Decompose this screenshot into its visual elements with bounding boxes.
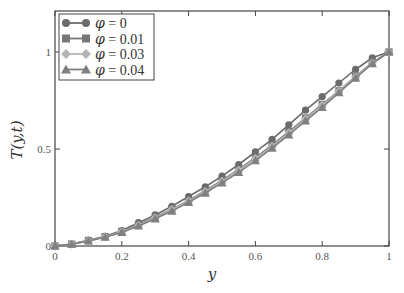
marker-circle (319, 93, 326, 100)
legend-label: φ = 0 (95, 15, 127, 31)
x-tick-label: 0.6 (249, 250, 263, 262)
x-tick-label: 0.4 (182, 250, 196, 262)
x-tick-label: 0.2 (115, 250, 129, 262)
line-chart: 00.20.40.60.8100.51 y T(y,t) φ = 0φ = 0.… (0, 0, 404, 293)
y-tick-label: 0.5 (37, 143, 51, 155)
legend-label: φ = 0.01 (95, 31, 144, 47)
x-axis-label: y (207, 265, 217, 283)
y-axis-label: T(y,t) (8, 120, 26, 159)
legend-label: φ = 0.04 (95, 62, 144, 78)
x-tick-label: 0.8 (315, 250, 329, 262)
marker-circle (335, 79, 342, 86)
legend-label: φ = 0.03 (95, 46, 144, 62)
marker-square (62, 35, 70, 43)
marker-circle (285, 121, 292, 128)
marker-circle (352, 66, 359, 73)
marker-circle (302, 107, 309, 114)
legend: φ = 0φ = 0.01φ = 0.03φ = 0.04 (59, 14, 154, 80)
x-tick-label: 0 (52, 250, 58, 262)
x-tick-label: 1 (386, 250, 392, 262)
marker-square (82, 35, 90, 43)
y-tick-label: 1 (46, 46, 52, 58)
marker-circle (62, 19, 70, 27)
marker-circle (82, 19, 90, 27)
